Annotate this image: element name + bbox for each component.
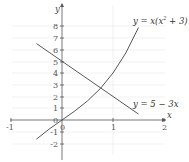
x-tick-label: 0 [60, 123, 65, 132]
curve-series-x-x2-plus-3 [37, 28, 139, 140]
y-tick-label: 8 [53, 22, 58, 31]
y-tick-label: 5 [53, 58, 58, 67]
y-axis-arrow-icon [60, 3, 64, 7]
curve-equation-label: y = x(x2 + 3) [132, 15, 188, 26]
x-tick-label: -1 [6, 123, 14, 132]
x-tick-label: 1 [111, 123, 116, 132]
y-tick-label: 3 [53, 81, 58, 90]
x-tick-label: 2 [162, 123, 167, 132]
y-axis-label: y [54, 4, 60, 14]
y-tick-label: 4 [53, 69, 58, 78]
line-series-5-minus-3x [37, 44, 139, 115]
y-tick-label: 7 [53, 34, 58, 43]
y-tick-label: -2 [50, 140, 58, 149]
y-tick-label: 2 [53, 93, 58, 102]
line-equation-label: y = 5 − 3x [132, 99, 179, 109]
y-tick-label: 1 [53, 104, 58, 113]
x-axis-label: x [167, 110, 172, 120]
y-tick-label: 6 [53, 46, 58, 55]
graph: y x -1 0 1 2 8 7 6 5 4 3 2 1 0 -1 -2 y =… [0, 0, 189, 162]
y-tick-label: -1 [50, 128, 58, 137]
axes [10, 3, 166, 160]
